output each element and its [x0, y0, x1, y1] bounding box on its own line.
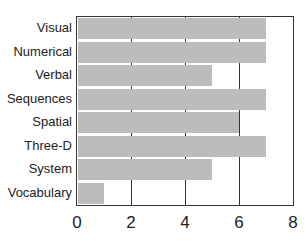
bar-numerical [78, 42, 266, 63]
plot-area [76, 16, 294, 206]
category-label: Vocabulary [8, 185, 72, 201]
bar-verbal [78, 65, 212, 86]
x-tick-label: 6 [229, 213, 249, 233]
bar-sequences [78, 89, 266, 110]
x-tick-label: 2 [121, 213, 141, 233]
category-label: Three-D [24, 138, 72, 154]
x-tick-label: 8 [283, 213, 303, 233]
category-label: System [29, 161, 72, 177]
bar-visual [78, 18, 266, 39]
category-label: Numerical [13, 44, 72, 60]
category-label: Visual [37, 20, 72, 36]
bar-spatial [78, 112, 239, 133]
category-label: Sequences [7, 91, 72, 107]
bar-system [78, 159, 212, 180]
category-label: Verbal [35, 67, 72, 83]
bar-vocabulary [78, 183, 104, 204]
category-label: Spatial [32, 114, 72, 130]
x-tick-label: 0 [67, 213, 87, 233]
x-tick-label: 4 [175, 213, 195, 233]
bar-three-d [78, 136, 266, 157]
